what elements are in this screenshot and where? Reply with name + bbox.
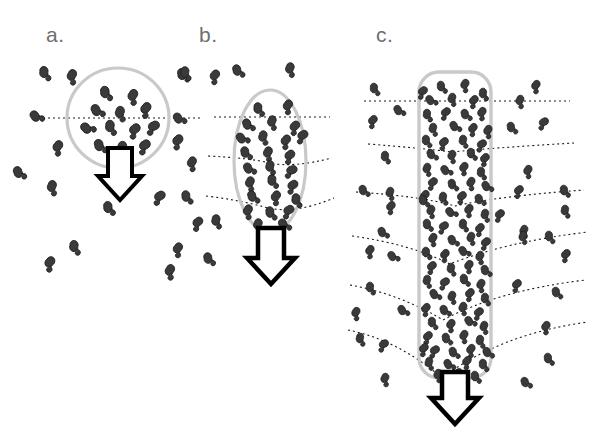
diagram-svg: a. — [0, 0, 600, 435]
figure-canvas: a. — [0, 0, 600, 435]
figure-background — [0, 0, 600, 435]
panel-c-label: c. — [376, 23, 393, 46]
panel-b-label: b. — [199, 23, 218, 46]
panel-a-label: a. — [46, 23, 65, 46]
